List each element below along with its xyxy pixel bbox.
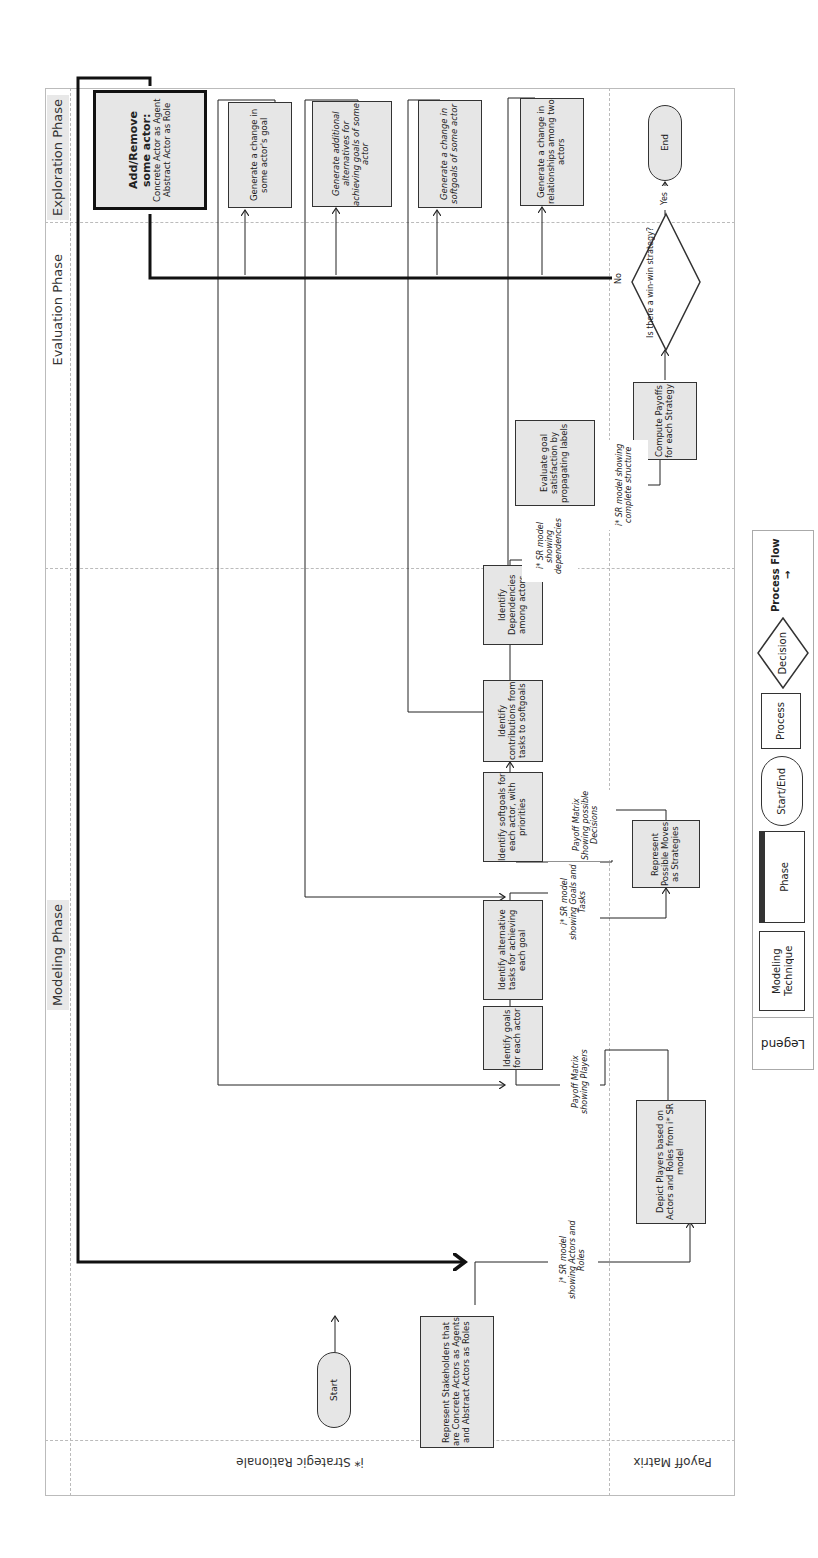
- process-change-relationships: Generate a change in relationships among…: [520, 98, 584, 206]
- process-identify-tasks: Identify alternative tasks for achieving…: [483, 900, 543, 1000]
- process-identify-contributions: Identify contributions from tasks to sof…: [483, 680, 543, 762]
- decision-win-win: Is there a win-win strategy?: [630, 212, 702, 352]
- process-additional-alternatives: Generate additional alternatives for ach…: [312, 101, 392, 207]
- process-represent-stakeholders: Represent Stakeholders that are Concrete…: [420, 1316, 494, 1448]
- start-terminal: Start: [317, 1352, 351, 1428]
- add-remove-title: Add/Remove some actor:: [128, 93, 153, 207]
- annotation-sr-goals-tasks: i* SR model showing Goals and Tasks: [548, 862, 600, 942]
- legend-start-end: Start/End: [761, 756, 803, 826]
- label-yes: Yes: [658, 186, 672, 210]
- annotation-payoff-players: Payoff Matrix showing Players: [560, 1040, 600, 1124]
- process-change-goal: Generate a change in some actor's goal: [228, 102, 292, 208]
- legend-modeling-technique: Modeling Technique: [759, 931, 805, 1011]
- process-identify-softgoals: Identify softgoals for each actor, with …: [483, 772, 543, 862]
- process-depict-players: Depict Players based on Actors and Roles…: [636, 1100, 706, 1224]
- process-evaluate-goal-satisfaction: Evaluate goal satisfaction by propagatin…: [515, 420, 595, 506]
- legend-process-flow: Process Flow →: [769, 535, 793, 615]
- annotation-sr-actors-roles: i* SR model showing Actors and Roles: [548, 1220, 598, 1300]
- process-change-softgoals: Generate a change in softgoals of some a…: [418, 100, 482, 208]
- legend-phase: Phase: [759, 831, 805, 923]
- process-add-remove-actor: Add/Remove some actor:Concrete Actor as …: [93, 90, 207, 210]
- add-remove-body: Concrete Actor as Agent Abstract Actor a…: [153, 93, 173, 207]
- label-no: No: [612, 268, 626, 288]
- process-represent-moves: Represent Possible Moves as Strategies: [632, 820, 700, 888]
- process-identify-goals: Identify goals for each actor: [483, 1006, 543, 1070]
- legend-process: Process: [761, 693, 801, 749]
- annotation-sr-complete: i* SR model showing complete structure: [600, 440, 648, 530]
- legend: Legend Modeling Technique Phase Start/En…: [752, 530, 814, 1070]
- legend-title: Legend: [755, 1019, 811, 1067]
- end-terminal: End: [648, 105, 682, 181]
- annotation-payoff-decisions: Payoff Matrix Showing possible Decisions: [556, 790, 616, 860]
- legend-decision: Decision: [757, 617, 809, 689]
- annotation-sr-dependencies: i* SR model showing dependencies: [522, 510, 578, 582]
